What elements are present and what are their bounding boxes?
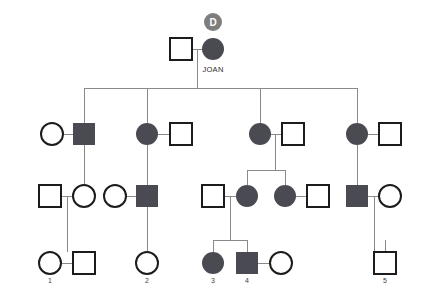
connector-layer [61,49,385,263]
person-symbol-unaffected-square[interactable] [282,123,304,145]
person-symbol-affected-circle[interactable] [202,38,224,60]
person-name-label: JOAN [202,65,223,74]
person-symbol-unaffected-circle[interactable] [379,185,401,207]
person-symbol-unaffected-square[interactable] [170,123,192,145]
proband-badge-letter: D [209,17,216,28]
person-symbol-unaffected-square[interactable] [307,185,329,207]
person-symbol-unaffected-circle[interactable] [41,123,63,145]
person-symbol-affected-square[interactable] [236,252,258,274]
pedigree-chart: 12345 DJOAN [0,0,437,294]
person-symbol-unaffected-circle[interactable] [104,185,126,207]
person-symbol-affected-square[interactable] [73,123,95,145]
person-symbol-unaffected-square[interactable] [39,185,61,207]
pedigree-canvas: 12345 DJOAN [0,0,437,294]
person-symbol-unaffected-circle[interactable] [270,252,292,274]
label-layer: 12345 [48,277,387,284]
person-symbol-affected-circle[interactable] [346,123,368,145]
person-symbol-unaffected-square[interactable] [73,252,95,274]
person-number-label: 1 [48,277,52,284]
person-symbol-affected-circle[interactable] [136,123,158,145]
person-number-label: 3 [211,277,215,284]
person-symbol-affected-square[interactable] [136,185,158,207]
person-number-label: 4 [245,277,249,284]
person-symbol-affected-circle[interactable] [236,185,258,207]
person-symbol-affected-square[interactable] [346,185,368,207]
person-symbol-unaffected-circle[interactable] [136,252,158,274]
person-number-label: 5 [383,277,387,284]
person-symbol-unaffected-square[interactable] [374,252,396,274]
person-symbol-unaffected-square[interactable] [170,38,192,60]
person-symbol-unaffected-square[interactable] [202,185,224,207]
person-number-label: 2 [145,277,149,284]
person-symbol-unaffected-circle[interactable] [39,252,61,274]
person-symbol-unaffected-square[interactable] [379,123,401,145]
person-symbol-affected-circle[interactable] [274,185,296,207]
person-symbol-affected-circle[interactable] [202,252,224,274]
person-symbol-unaffected-circle[interactable] [73,185,95,207]
person-symbol-affected-circle[interactable] [249,123,271,145]
